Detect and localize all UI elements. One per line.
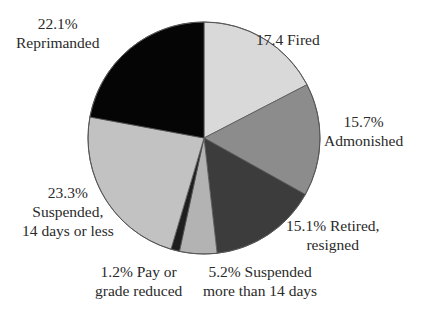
label-admonished-line2: Admonished [324,131,403,150]
label-reprimanded-line2: Reprimanded [16,33,100,52]
label-reprimanded-line1: 22.1% [16,14,100,33]
label-suspended-14-or-less-line2: Suspended, [22,202,114,221]
label-fired: 17.4 Fired [256,30,320,49]
label-retired-line1: 15.1% Retired, [286,216,379,235]
label-fired-line1: 17.4 Fired [256,30,320,49]
label-suspended-14-or-less: 23.3% Suspended, 14 days or less [22,183,114,240]
label-reprimanded: 22.1% Reprimanded [16,14,100,52]
label-suspended-more-14: 5.2% Suspended more than 14 days [203,262,317,300]
label-suspended-14-or-less-line3: 14 days or less [22,221,114,240]
label-suspended-more-14-line2: more than 14 days [203,281,317,300]
label-retired-line2: resigned [286,235,379,254]
label-admonished: 15.7% Admonished [324,112,403,150]
label-admonished-line1: 15.7% [324,112,403,131]
label-suspended-more-14-line1: 5.2% Suspended [203,262,317,281]
label-pay-reduced-line1: 1.2% Pay or [95,262,182,281]
label-pay-reduced: 1.2% Pay or grade reduced [95,262,182,300]
label-pay-reduced-line2: grade reduced [95,281,182,300]
label-suspended-14-or-less-line1: 23.3% [22,183,114,202]
pie-chart: 17.4 Fired 15.7% Admonished 15.1% Retire… [0,0,431,311]
label-retired: 15.1% Retired, resigned [286,216,379,254]
